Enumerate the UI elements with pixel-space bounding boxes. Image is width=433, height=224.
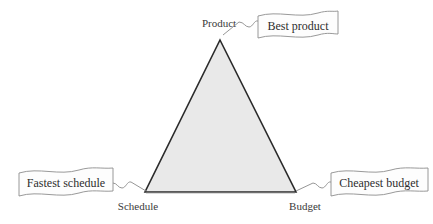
banner-cheapest-budget-label: Cheapest budget xyxy=(339,176,419,190)
vertex-label-product: Product xyxy=(202,17,236,29)
banner-fastest-schedule-label: Fastest schedule xyxy=(27,176,105,190)
banner-best-product-label: Best product xyxy=(268,19,330,33)
banner-cheapest-budget: Cheapest budget xyxy=(331,168,428,196)
vertex-label-budget: Budget xyxy=(289,200,321,212)
banner-fastest-schedule: Fastest schedule xyxy=(19,168,113,196)
triangle-group xyxy=(145,40,296,193)
connector-budget-leader-line xyxy=(296,183,313,191)
connector-budget-to-cheapest-budget xyxy=(313,182,331,188)
banner-best-product: Best product xyxy=(258,11,338,38)
vertex-label-schedule: Schedule xyxy=(118,200,158,212)
connector-product-to-best-product xyxy=(239,21,258,27)
project-triangle-diagram: Product Schedule Budget Best product Fas… xyxy=(0,0,433,224)
diagram-canvas: Product Schedule Budget Best product Fas… xyxy=(0,0,433,224)
connector-schedule-leader-line xyxy=(131,182,146,191)
constraint-triangle xyxy=(145,40,296,192)
connector-schedule-to-fastest-schedule xyxy=(113,182,131,188)
